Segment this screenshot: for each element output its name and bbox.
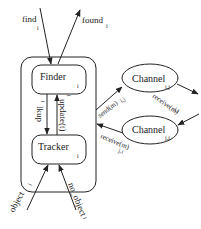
tracker-label: Tracker (38, 141, 69, 152)
lkup-label: lkup (35, 106, 45, 123)
object-label: object (7, 189, 26, 214)
receive-ji-subscript: j,i (117, 147, 125, 155)
send-label: send(m) (96, 99, 120, 120)
diagram-canvas: Finder i Tracker i Channel i,j Channel j… (0, 0, 201, 229)
edge-object: object i (7, 165, 48, 214)
found-label: found (82, 15, 103, 25)
find-label: find (22, 14, 37, 24)
edge-lkup: lkup i (35, 94, 47, 134)
object-subscript: i (27, 182, 33, 187)
find-subscript: i (37, 25, 39, 31)
send-subscript: i,j (119, 96, 127, 104)
lkup-subscript: i (40, 101, 46, 103)
edge-send: send(m) i,j (96, 87, 127, 120)
edge-find: find i (22, 8, 51, 64)
channel-ji-subscript: j,i (164, 135, 170, 141)
channel-ji-node: Channel j,i (122, 116, 178, 144)
no-object-label: no_object (66, 181, 89, 218)
no-object-subscript: i (82, 216, 88, 220)
channel-ji-label: Channel (132, 124, 166, 135)
edge-found: found i (58, 10, 108, 64)
finder-label: Finder (40, 71, 67, 82)
tracker-node: Tracker i (32, 135, 86, 164)
edge-incoming-ji (178, 114, 199, 125)
channel-ij-node: Channel i,j (122, 64, 178, 92)
channel-ij-subscript: i,j (165, 84, 170, 90)
finder-node: Finder i (32, 65, 86, 94)
edge-no-object: no_object i (59, 165, 89, 220)
edge-update: update(t) i (57, 95, 72, 135)
channel-ij-label: Channel (132, 73, 166, 84)
update-label: update(t) (58, 99, 68, 131)
found-subscript: i (106, 23, 108, 29)
update-subscript: i (66, 95, 72, 97)
